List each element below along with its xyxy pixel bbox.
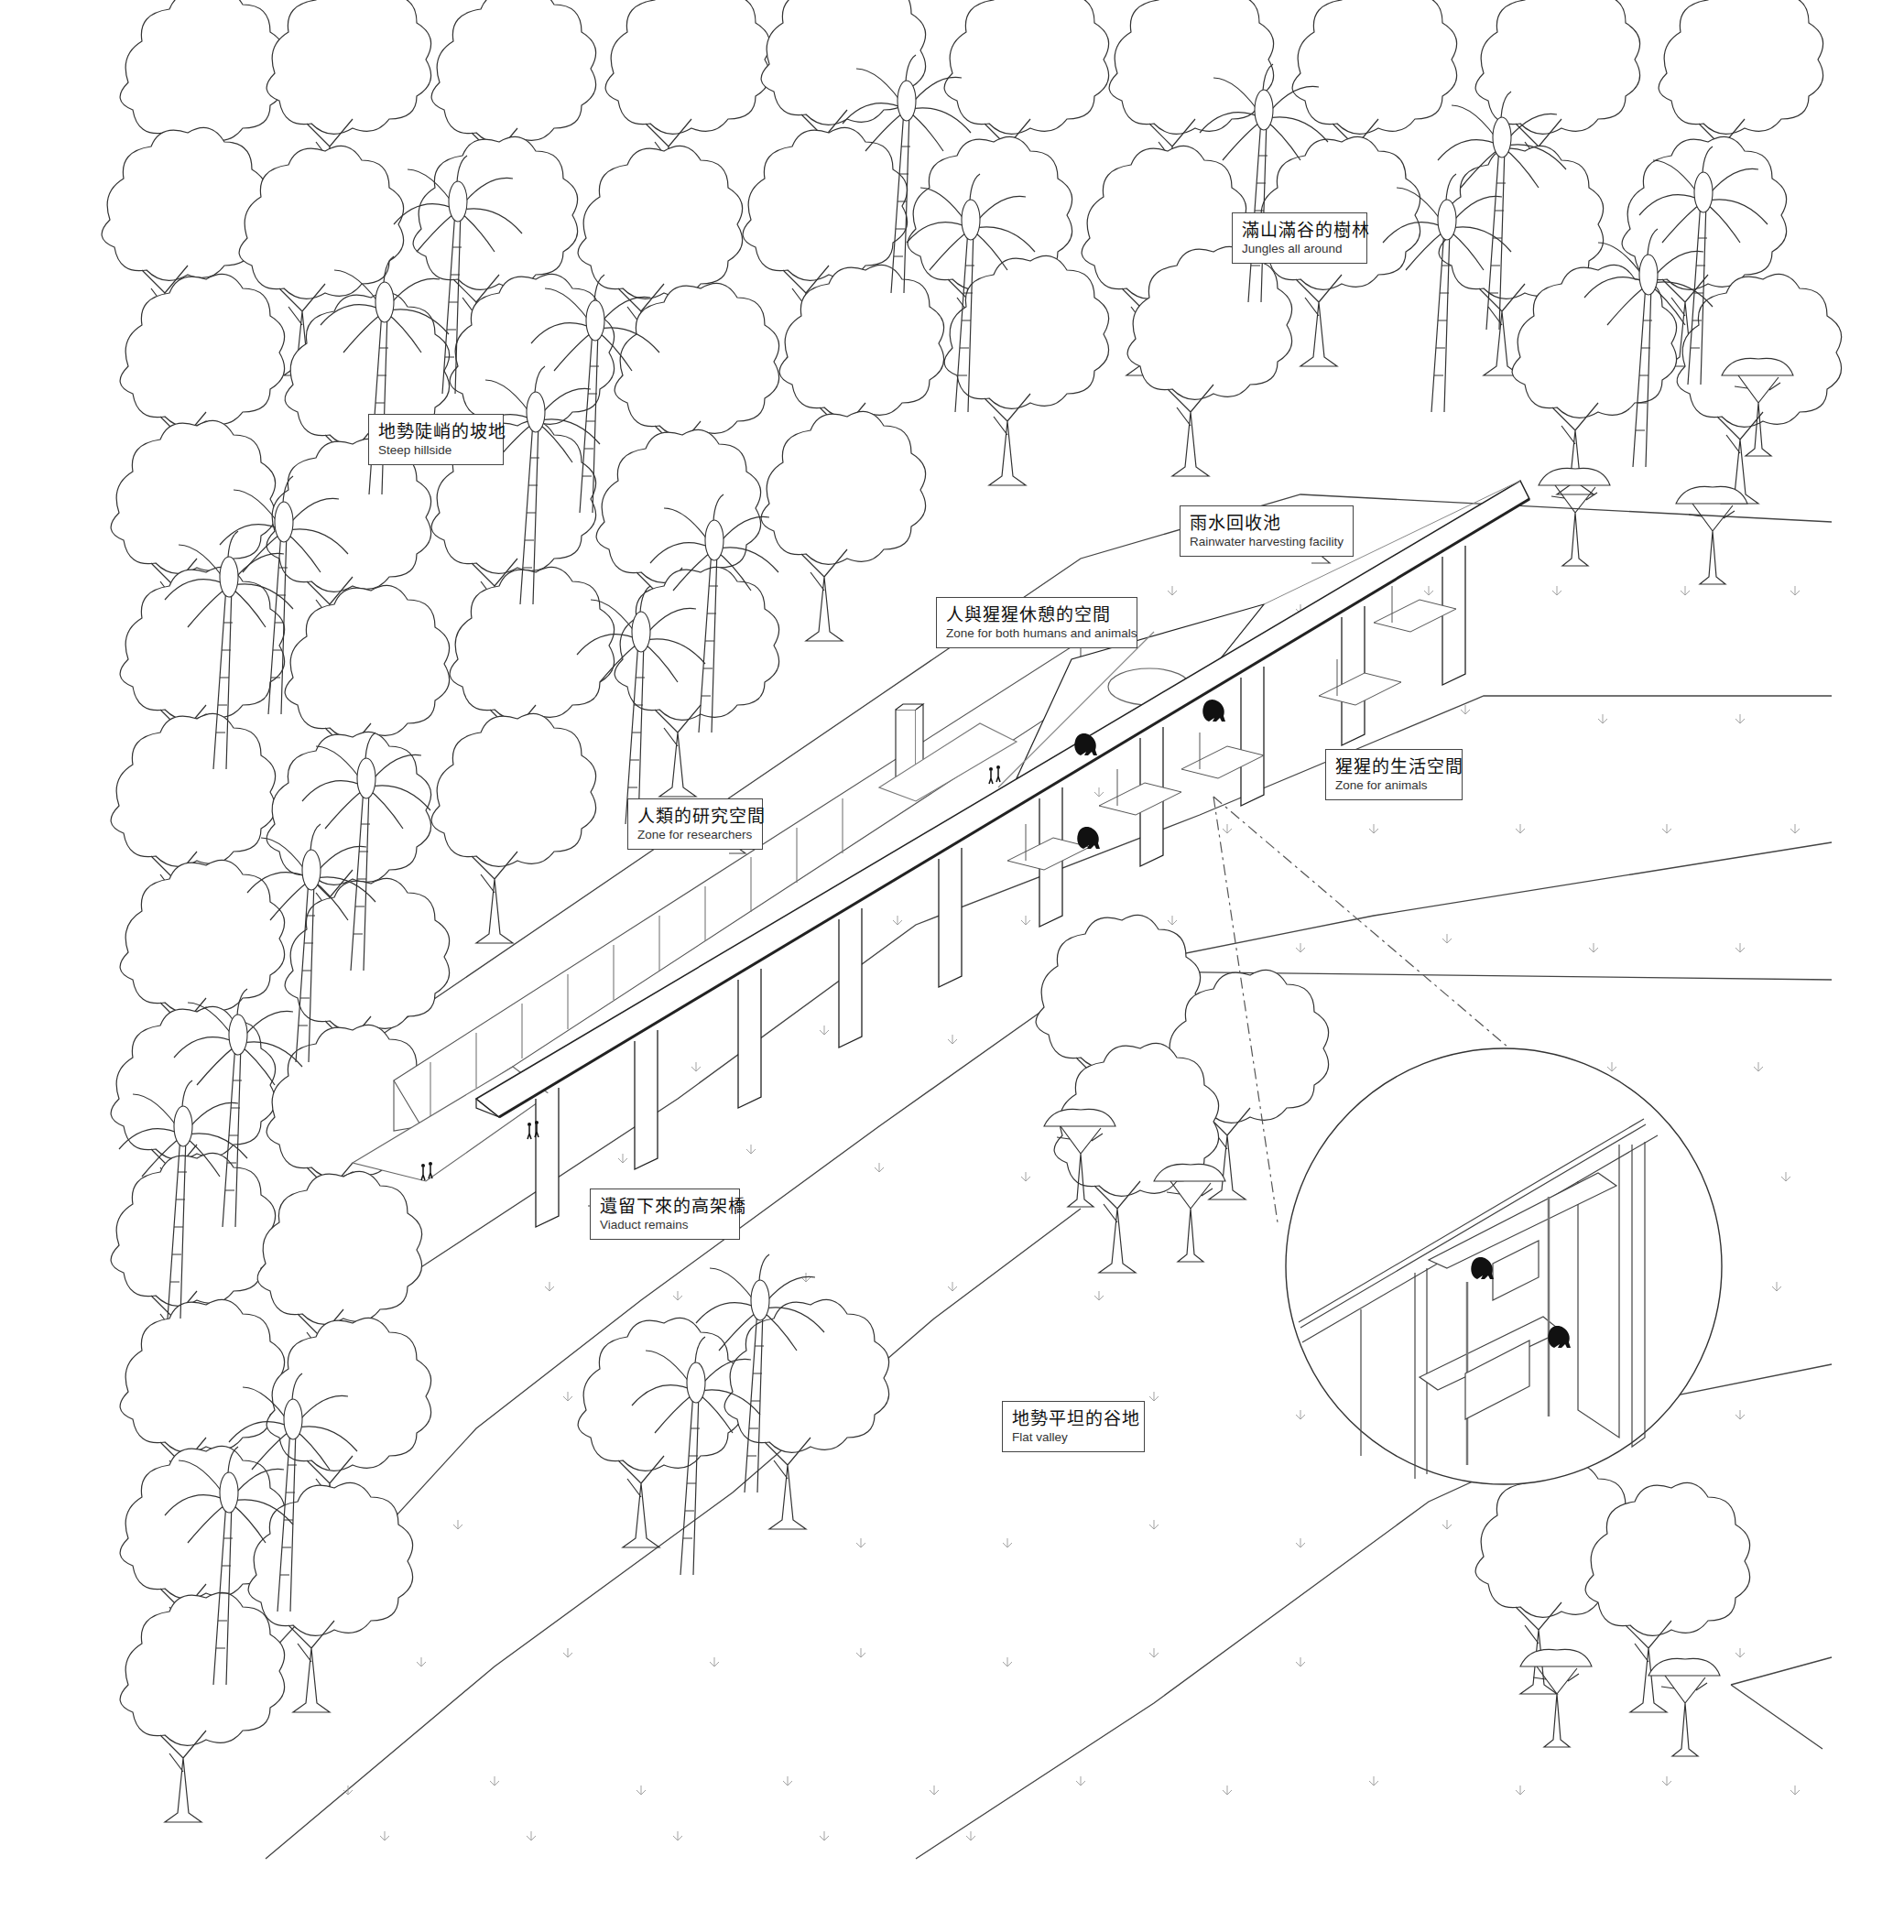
label-jungle-en: Jungles all around bbox=[1242, 241, 1357, 257]
label-viaduct-zh: 遺留下來的高架橋 bbox=[600, 1195, 730, 1217]
label-hillside-en: Steep hillside bbox=[378, 442, 494, 459]
label-rainwater-zh: 雨水回收池 bbox=[1190, 512, 1344, 534]
label-viaduct-en: Viaduct remains bbox=[600, 1217, 730, 1233]
label-jungle: 滿山滿谷的樹林 Jungles all around bbox=[1232, 212, 1367, 264]
label-viaduct: 遺留下來的高架橋 Viaduct remains bbox=[590, 1189, 740, 1240]
label-animal-zone-en: Zone for animals bbox=[1335, 777, 1452, 794]
label-hillside-zh: 地勢陡峭的坡地 bbox=[378, 420, 494, 442]
label-shared-zone-en: Zone for both humans and animals bbox=[946, 625, 1127, 642]
axonometric-diagram bbox=[0, 0, 1904, 1932]
label-research-zone-zh: 人類的研究空間 bbox=[637, 805, 753, 827]
label-animal-zone: 猩猩的生活空間 Zone for animals bbox=[1325, 749, 1463, 800]
label-hillside: 地勢陡峭的坡地 Steep hillside bbox=[368, 414, 504, 465]
label-rainwater-en: Rainwater harvesting facility bbox=[1190, 534, 1344, 550]
label-valley-en: Flat valley bbox=[1012, 1429, 1135, 1446]
label-shared-zone-zh: 人與猩猩休憩的空間 bbox=[946, 603, 1127, 625]
label-research-zone-en: Zone for researchers bbox=[637, 827, 753, 843]
detail-circle bbox=[1286, 1048, 1722, 1484]
label-valley: 地勢平坦的谷地 Flat valley bbox=[1002, 1401, 1145, 1452]
label-valley-zh: 地勢平坦的谷地 bbox=[1012, 1407, 1135, 1429]
label-animal-zone-zh: 猩猩的生活空間 bbox=[1335, 755, 1452, 777]
label-rainwater: 雨水回收池 Rainwater harvesting facility bbox=[1180, 505, 1354, 557]
label-shared-zone: 人與猩猩休憩的空間 Zone for both humans and anima… bbox=[936, 597, 1137, 648]
label-research-zone: 人類的研究空間 Zone for researchers bbox=[627, 798, 763, 850]
label-jungle-zh: 滿山滿谷的樹林 bbox=[1242, 219, 1357, 241]
